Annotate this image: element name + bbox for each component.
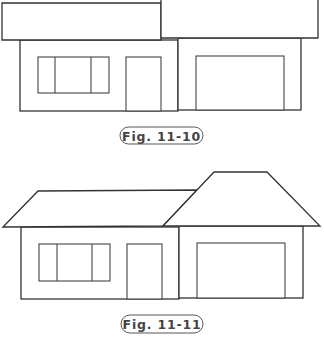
front-door	[127, 244, 162, 299]
right-roof	[161, 0, 318, 38]
left-roof	[2, 3, 161, 40]
figure-11-10: Fig. 11-10	[2, 0, 318, 144]
caption-text: Fig. 11-10	[122, 129, 201, 144]
garage-door	[197, 243, 285, 298]
window	[38, 57, 109, 93]
house-elevation-diagrams: Fig. 11-10 Fig. 11-11	[0, 0, 324, 342]
caption-text: Fig. 11-11	[123, 317, 202, 332]
figure-caption: Fig. 11-10	[120, 127, 203, 144]
window-frame	[38, 57, 109, 93]
window	[39, 244, 110, 281]
window-frame	[39, 244, 110, 281]
figure-caption: Fig. 11-11	[121, 315, 203, 333]
garage-door	[196, 56, 284, 110]
front-door	[126, 57, 161, 111]
figure-11-11: Fig. 11-11	[3, 172, 320, 333]
